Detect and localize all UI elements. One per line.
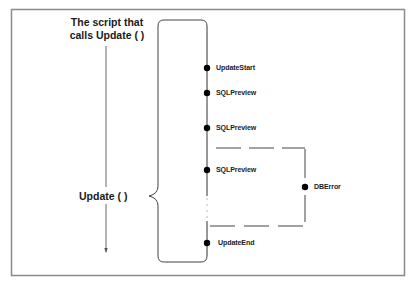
diagram-frame <box>12 10 405 276</box>
event-label-sql-preview-1: SQLPreview <box>216 88 256 97</box>
event-dot-icon <box>204 65 210 71</box>
event-dot-icon <box>204 125 210 131</box>
event-dot-icon <box>204 240 210 246</box>
timeline-arrowhead-icon <box>104 248 107 253</box>
event-label-update-end: UpdateEnd <box>218 238 254 247</box>
event-dot-icon <box>204 90 210 96</box>
curly-brace-bracket <box>149 20 207 262</box>
caller-title-line2: calls Update ( ) <box>64 29 150 42</box>
event-label-db-error: DBError <box>314 182 341 191</box>
event-label-sql-preview-2: SQLPreview <box>216 123 256 132</box>
event-label-update-start: UpdateStart <box>216 63 255 72</box>
caller-script-title: The script that calls Update ( ) <box>64 16 150 42</box>
caller-title-line1: The script that <box>64 16 150 29</box>
event-dot-icon <box>204 167 210 173</box>
error-event-dot-icon <box>302 184 308 190</box>
update-function-label: Update ( ) <box>77 190 129 202</box>
bracket-top <box>164 20 207 26</box>
event-label-sql-preview-3: SQLPreview <box>216 165 256 174</box>
diagram-canvas <box>0 0 416 286</box>
event-flow-diagram: The script that calls Update ( ) Update … <box>0 0 416 286</box>
